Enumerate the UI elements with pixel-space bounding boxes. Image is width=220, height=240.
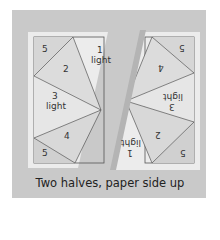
caption: Two halves, paper side up	[0, 176, 220, 190]
right-piece-3-label: light	[163, 92, 183, 102]
right-piece-2-number: 2	[155, 130, 161, 140]
left-piece-2: 2	[63, 64, 69, 74]
left-piece-5-top: 5	[42, 44, 48, 54]
right-piece-3-number: 3	[169, 102, 175, 112]
left-piece-5-bottom: 5	[42, 148, 48, 158]
right-piece-1-label: light	[121, 138, 141, 148]
left-piece-1-number: 1	[97, 45, 103, 55]
left-piece-1-label: light	[91, 55, 111, 65]
right-piece-4: 4	[158, 63, 164, 73]
left-piece-4: 4	[64, 131, 70, 141]
left-piece-3-label: light	[46, 101, 66, 111]
right-piece-5-bottom: 5	[180, 148, 186, 158]
right-piece-5-top: 5	[179, 43, 185, 53]
right-piece-1-number: 1	[127, 148, 133, 158]
left-piece-3-number: 3	[52, 91, 58, 101]
